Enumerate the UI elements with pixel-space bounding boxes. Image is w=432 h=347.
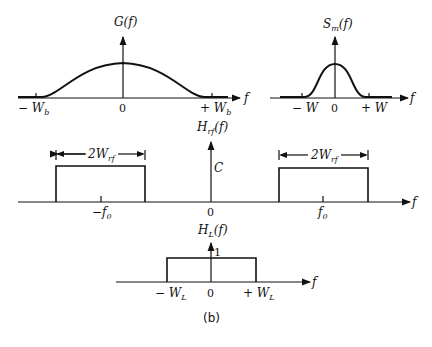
message-spectrum-curve — [280, 64, 392, 97]
svg-text:0: 0 — [207, 287, 214, 300]
svg-text:f: f — [311, 275, 319, 289]
diagram-canvas: G(f) f − Wb 0 + Wb Sm(f) f − W 0 + W 2Wr… — [0, 0, 432, 347]
g-f-label: G(f) — [114, 15, 138, 29]
svg-text:C: C — [214, 161, 223, 175]
svg-text:1: 1 — [214, 246, 221, 259]
svg-text:− WL: − WL — [155, 286, 187, 302]
svg-text:+ W: + W — [361, 101, 389, 115]
svg-text:f: f — [409, 91, 417, 105]
svg-text:− Wb: − Wb — [18, 101, 49, 117]
svg-text:+ WL: + WL — [243, 286, 275, 302]
svg-text:HL(f): HL(f) — [197, 223, 228, 239]
svg-text:0: 0 — [207, 206, 214, 219]
svg-text:Hrf(f): Hrf(f) — [196, 120, 228, 136]
svg-text:0: 0 — [119, 102, 126, 115]
baseband-spectrum-panel: G(f) f − Wb 0 + Wb — [18, 15, 251, 117]
svg-text:− W: − W — [292, 101, 320, 115]
svg-text:2Wrf: 2Wrf — [310, 148, 340, 164]
svg-text:f: f — [411, 195, 419, 209]
lowpass-filter-panel: HL(f) 1 f − WL 0 + WL — [116, 223, 319, 302]
svg-text:2Wrf: 2Wrf — [87, 147, 117, 163]
message-spectrum-panel: Sm(f) f − W 0 + W — [270, 17, 417, 115]
figure-caption: (b) — [203, 311, 220, 325]
svg-text:+ Wb: + Wb — [200, 101, 231, 117]
svg-text:0: 0 — [331, 102, 338, 115]
svg-text:Sm(f): Sm(f) — [323, 17, 353, 33]
rf-filter-panel: 2Wrf 2Wrf Hrf(f) C f −f0 0 f0 — [18, 120, 419, 221]
svg-text:f: f — [243, 91, 251, 105]
svg-text:−f0: −f0 — [92, 205, 112, 221]
svg-text:f0: f0 — [317, 205, 328, 221]
